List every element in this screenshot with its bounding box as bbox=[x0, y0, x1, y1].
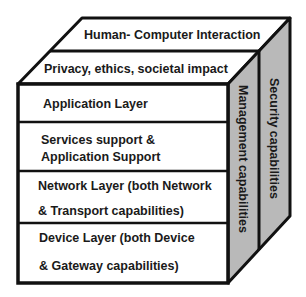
layer-label-application: Application Layer bbox=[43, 97, 148, 111]
layer-label-network-line1: Network Layer (both Network bbox=[38, 179, 212, 193]
side-label-security: Security capabilities bbox=[267, 78, 281, 199]
layer-label-device-line2: & Gateway capabilities) bbox=[39, 259, 179, 273]
iot-layer-cube-diagram: Human- Computer Interaction Privacy, eth… bbox=[0, 0, 306, 297]
layer-label-hci: Human- Computer Interaction bbox=[84, 28, 260, 42]
layer-label-services-line2: Application Support bbox=[41, 150, 161, 164]
layer-label-network-line2: & Transport capabilities) bbox=[38, 204, 184, 218]
layer-label-services-line1: Services support & bbox=[41, 133, 155, 147]
side-label-management: Management capabilities bbox=[236, 85, 250, 233]
layer-label-device-line1: Device Layer (both Device bbox=[39, 231, 195, 245]
layer-label-privacy: Privacy, ethics, societal impact bbox=[44, 62, 229, 76]
